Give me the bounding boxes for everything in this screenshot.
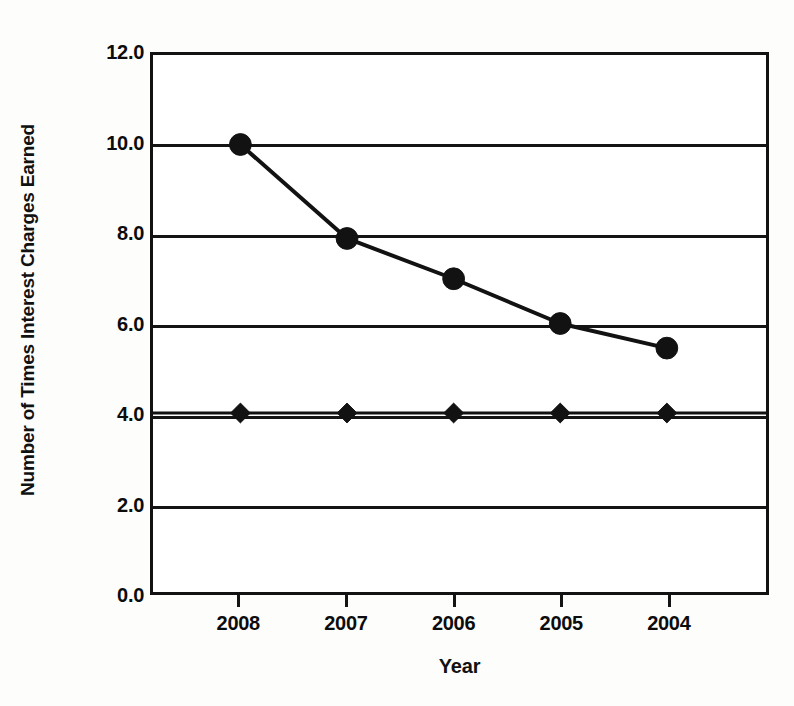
x-tick-label: 2008 <box>183 612 293 635</box>
data-point-circle <box>230 134 252 156</box>
data-point-diamond <box>550 403 570 423</box>
x-tick <box>668 595 671 607</box>
x-tick <box>560 595 563 607</box>
series-2-diamond <box>153 403 766 423</box>
y-tick-label: 10.0 <box>58 131 144 154</box>
y-tick-label: 8.0 <box>58 222 144 245</box>
x-tick <box>237 595 240 607</box>
y-tick-label: 6.0 <box>58 312 144 335</box>
x-tick-label: 2006 <box>399 612 509 635</box>
x-axis-title: Year <box>150 655 769 678</box>
data-point-circle <box>336 228 358 250</box>
y-axis-title-text: Number of Times Interest Charges Earned <box>17 124 39 496</box>
x-tick-label: 2005 <box>506 612 616 635</box>
x-tick-label: 2007 <box>291 612 401 635</box>
chart-figure: Number of Times Interest Charges Earned … <box>0 0 794 706</box>
data-point-circle <box>443 268 465 290</box>
data-point-diamond <box>657 403 677 423</box>
y-tick-label: 2.0 <box>58 493 144 516</box>
data-point-circle <box>656 337 678 359</box>
x-axis-ticks <box>150 595 769 607</box>
y-axis-title: Number of Times Interest Charges Earned <box>0 0 56 620</box>
series-layer <box>153 55 766 592</box>
y-axis-tick-labels: 12.010.08.06.04.02.00.0 <box>52 0 144 706</box>
y-tick-label: 12.0 <box>58 41 144 64</box>
data-point-diamond <box>337 403 357 423</box>
x-tick-label: 2004 <box>614 612 724 635</box>
x-tick <box>345 595 348 607</box>
series-1-circle <box>230 134 678 359</box>
data-point-diamond <box>444 403 464 423</box>
series-line <box>240 145 666 349</box>
data-point-circle <box>549 313 571 335</box>
y-tick-label: 0.0 <box>58 584 144 607</box>
y-tick-label: 4.0 <box>58 403 144 426</box>
data-point-diamond <box>231 403 251 423</box>
x-tick <box>453 595 456 607</box>
plot-area <box>150 52 769 595</box>
x-axis-tick-labels: 20082007200620052004 <box>150 612 769 642</box>
